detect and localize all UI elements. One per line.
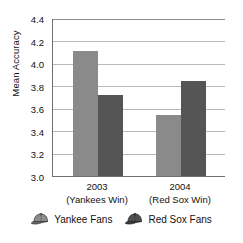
bar-chart: Mean Accuracy 4.4 4.2 4.0 3.8 3.6 3.4 3.… bbox=[0, 0, 243, 243]
x-group-year: 2003 bbox=[52, 181, 142, 194]
legend: Yankee Fans Red Sox Fans bbox=[0, 212, 243, 226]
y-tick-label: 3.2 bbox=[31, 149, 44, 160]
legend-label: Yankee Fans bbox=[54, 214, 112, 225]
y-tick-label: 3.6 bbox=[31, 104, 44, 115]
x-group-sublabel: (Red Sox Win) bbox=[135, 194, 225, 207]
x-group-label-2004: 2004 (Red Sox Win) bbox=[135, 181, 225, 206]
y-tick-label: 3.8 bbox=[31, 81, 44, 92]
y-tick-label: 4.2 bbox=[31, 36, 44, 47]
x-axis-labels: 2003 (Yankees Win) 2004 (Red Sox Win) bbox=[52, 181, 225, 209]
baseball-cap-icon bbox=[31, 212, 51, 226]
bar-2004-red-sox-fans bbox=[181, 81, 206, 176]
x-group-year: 2004 bbox=[135, 181, 225, 194]
baseball-cap-icon bbox=[125, 212, 145, 226]
legend-item-yankee-fans: Yankee Fans bbox=[31, 212, 112, 226]
legend-label: Red Sox Fans bbox=[148, 214, 211, 225]
bar-2004-yankee-fans bbox=[156, 115, 181, 176]
y-axis-tick-labels: 4.4 4.2 4.0 3.8 3.6 3.4 3.2 3.0 bbox=[0, 19, 48, 177]
x-group-label-2003: 2003 (Yankees Win) bbox=[52, 181, 142, 206]
bar-2003-red-sox-fans bbox=[98, 95, 123, 176]
x-group-sublabel: (Yankees Win) bbox=[52, 194, 142, 207]
plot-area bbox=[52, 19, 225, 177]
y-tick-label: 3.4 bbox=[31, 126, 44, 137]
y-tick-label: 4.0 bbox=[31, 59, 44, 70]
bars-layer bbox=[53, 19, 225, 176]
y-tick-label: 4.4 bbox=[31, 14, 44, 25]
bar-2003-yankee-fans bbox=[73, 51, 98, 176]
y-tick-label: 3.0 bbox=[31, 172, 44, 183]
legend-item-red-sox-fans: Red Sox Fans bbox=[125, 212, 211, 226]
